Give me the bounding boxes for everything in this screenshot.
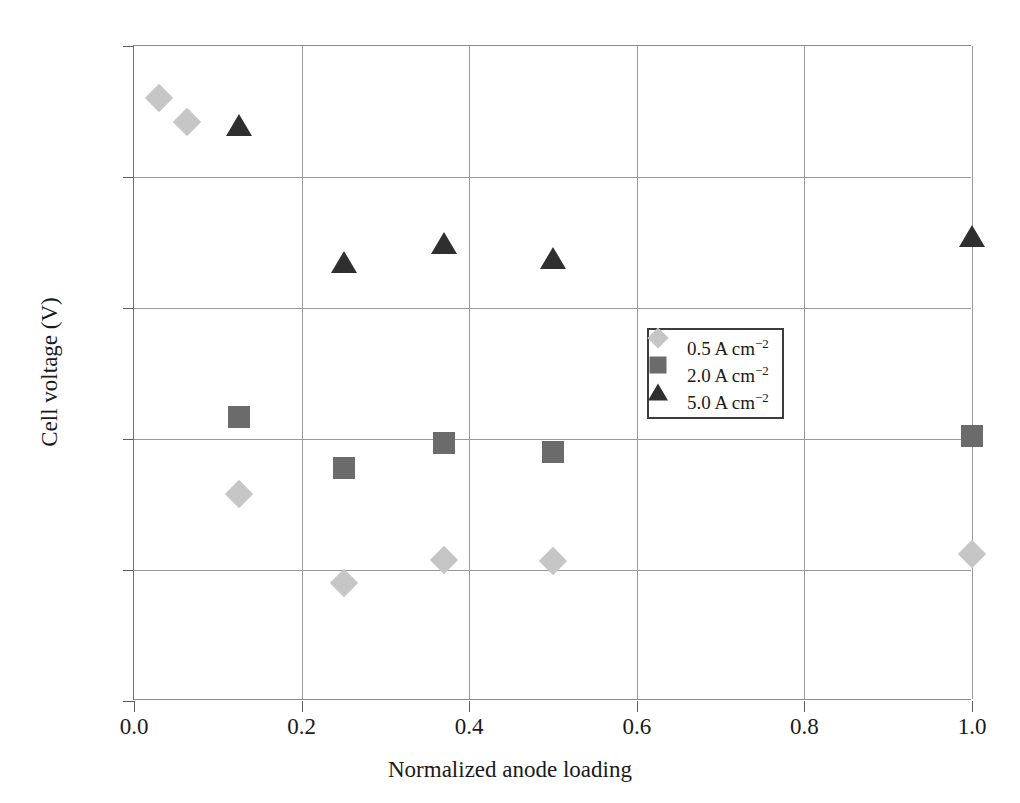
data-point-triangle [226,114,252,136]
chart-legend: 0.5 A cm−22.0 A cm−25.0 A cm−2 [647,328,784,419]
scatter-chart-figure: 1.501.601.701.801.902.000.00.20.40.60.81… [0,0,1020,803]
y-axis-tick [123,439,134,440]
gridline-horizontal [134,439,971,440]
data-point-diamond [173,108,201,136]
y-axis-tick [123,46,134,47]
y-axis-tick [123,701,134,702]
x-axis-tick [804,701,805,712]
x-axis-tick-label: 0.0 [74,715,194,738]
data-point-triangle [648,383,668,400]
data-point-square [333,457,355,479]
legend-item: 2.0 A cm−2 [658,362,782,389]
legend-label: 0.5 A cm−2 [687,339,769,358]
plot-area: 1.501.601.701.801.902.000.00.20.40.60.81… [133,45,971,700]
data-point-diamond [145,84,173,112]
y-axis-tick [123,177,134,178]
x-axis-tick [469,701,470,712]
legend-item: 0.5 A cm−2 [658,335,782,362]
data-point-diamond [329,569,357,597]
gridline-vertical [637,46,638,699]
gridline-vertical [302,46,303,699]
gridline-vertical [469,46,470,699]
x-axis-tick [302,701,303,712]
data-point-diamond [958,540,986,568]
y-axis-tick [123,308,134,309]
data-point-square [433,432,455,454]
legend-label: 2.0 A cm−2 [687,366,769,385]
y-axis-title: Cell voltage (V) [37,297,63,446]
data-point-triangle [959,225,985,247]
x-axis-tick [637,701,638,712]
gridline-horizontal [134,177,971,178]
gridline-horizontal [134,308,971,309]
data-point-square [542,441,564,463]
x-axis-title: Normalized anode loading [0,757,1020,783]
data-point-diamond [225,480,253,508]
legend-marker-triangle-icon [658,392,680,414]
x-axis-tick-label: 0.8 [744,715,864,738]
data-point-triangle [540,247,566,269]
legend-label: 5.0 A cm−2 [687,393,769,412]
gridline-vertical [972,46,973,699]
legend-item: 5.0 A cm−2 [658,389,782,416]
x-axis-tick-label: 0.4 [409,715,529,738]
x-axis-tick-label: 1.0 [912,715,1020,738]
data-point-triangle [331,251,357,273]
x-axis-tick-label: 0.2 [242,715,362,738]
data-point-diamond [647,327,668,348]
data-point-square [650,356,667,373]
data-point-square [961,425,983,447]
x-axis-tick [972,701,973,712]
data-point-square [228,406,250,428]
y-axis-tick [123,570,134,571]
data-point-triangle [431,232,457,254]
x-axis-tick-label: 0.6 [577,715,697,738]
x-axis-tick [134,701,135,712]
gridline-vertical [804,46,805,699]
